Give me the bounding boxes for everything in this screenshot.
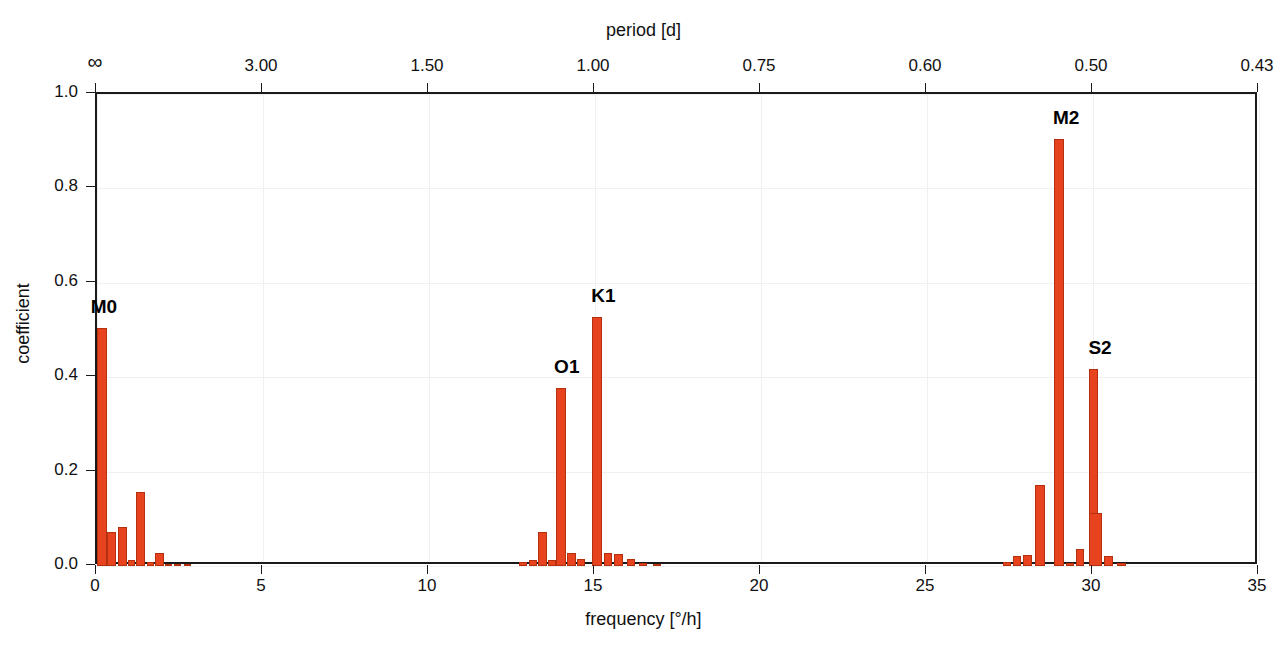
bar — [136, 492, 145, 566]
top-tick-label: 1.50 — [410, 56, 443, 76]
bar — [592, 317, 601, 566]
gridline-horizontal — [97, 566, 1255, 567]
bar — [118, 527, 127, 566]
x-tick-mark — [261, 565, 262, 574]
x-tick-mark — [925, 565, 926, 574]
top-tick-mark — [261, 83, 262, 92]
y-tick-mark — [86, 186, 95, 187]
bar — [128, 560, 135, 566]
top-tick-mark — [95, 83, 96, 92]
y-tick-label: 0.2 — [0, 460, 78, 480]
bar — [548, 560, 556, 566]
bar-series — [97, 94, 1259, 566]
bar — [1089, 513, 1102, 566]
top-tick-label: 0.50 — [1074, 56, 1107, 76]
bar — [1054, 139, 1064, 566]
y-tick-mark — [86, 281, 95, 282]
plot-area — [95, 92, 1257, 564]
top-tick-label: 3.00 — [244, 56, 277, 76]
x-tick-label: 0 — [90, 576, 99, 596]
x-tick-label: 30 — [1082, 576, 1101, 596]
bar — [1076, 549, 1085, 566]
y-tick-label: 0.0 — [0, 554, 78, 574]
bar — [165, 564, 172, 566]
top-tick-label: 1.00 — [576, 56, 609, 76]
top-tick-label: 0.75 — [742, 56, 775, 76]
peak-label-k1: K1 — [591, 285, 615, 307]
bar — [155, 553, 164, 566]
bar — [529, 560, 537, 566]
top-tick-label: 0.43 — [1240, 56, 1273, 76]
bar — [1104, 556, 1113, 566]
y-tick-mark — [86, 470, 95, 471]
top-tick-mark — [1091, 83, 1092, 92]
x-tick-label: 15 — [584, 576, 603, 596]
bar — [653, 564, 661, 566]
x-tick-mark — [759, 565, 760, 574]
peak-label-m2: M2 — [1053, 107, 1079, 129]
y-tick-label: 0.4 — [0, 365, 78, 385]
x-tick-label: 35 — [1248, 576, 1267, 596]
y-tick-label: 0.6 — [0, 271, 78, 291]
x-tick-mark — [95, 565, 96, 574]
top-axis-title: period [d] — [0, 20, 1287, 41]
bar — [1066, 563, 1074, 566]
x-tick-label: 25 — [916, 576, 935, 596]
top-tick-label: ∞ — [88, 50, 103, 74]
bar — [538, 532, 547, 566]
top-tick-mark — [759, 83, 760, 92]
top-tick-mark — [427, 83, 428, 92]
bar — [627, 559, 636, 566]
x-tick-mark — [593, 565, 594, 574]
bar — [639, 563, 647, 566]
peak-label-m0: M0 — [91, 296, 117, 318]
x-tick-mark — [427, 565, 428, 574]
bar — [107, 532, 116, 566]
y-tick-mark — [86, 564, 95, 565]
x-tick-label: 10 — [418, 576, 437, 596]
bar — [614, 554, 623, 566]
top-tick-mark — [593, 83, 594, 92]
bar — [184, 564, 191, 566]
y-tick-mark — [86, 375, 95, 376]
chart-figure: period [d] frequency [°/h] coefficient ∞… — [0, 0, 1287, 650]
top-tick-mark — [1257, 83, 1258, 92]
bar — [519, 562, 527, 566]
bar — [147, 562, 154, 566]
x-tick-label: 5 — [256, 576, 265, 596]
x-tick-mark — [1257, 565, 1258, 574]
peak-label-s2: S2 — [1088, 337, 1111, 359]
x-tick-label: 20 — [750, 576, 769, 596]
y-tick-mark — [86, 92, 95, 93]
bar — [1023, 555, 1032, 566]
bar — [1003, 562, 1012, 566]
bar — [1013, 556, 1022, 566]
bar — [1035, 485, 1044, 566]
bar — [577, 559, 585, 566]
bar — [556, 388, 565, 566]
peak-label-o1: O1 — [554, 356, 579, 378]
bar — [1117, 563, 1126, 566]
x-axis-title: frequency [°/h] — [0, 609, 1287, 630]
bar — [174, 564, 181, 566]
y-tick-label: 0.8 — [0, 176, 78, 196]
bar — [97, 328, 107, 566]
gridline-vertical — [1259, 94, 1260, 562]
x-tick-mark — [1091, 565, 1092, 574]
bar — [604, 553, 613, 566]
top-tick-mark — [925, 83, 926, 92]
bar — [567, 553, 576, 566]
y-tick-label: 1.0 — [0, 82, 78, 102]
top-tick-label: 0.60 — [908, 56, 941, 76]
